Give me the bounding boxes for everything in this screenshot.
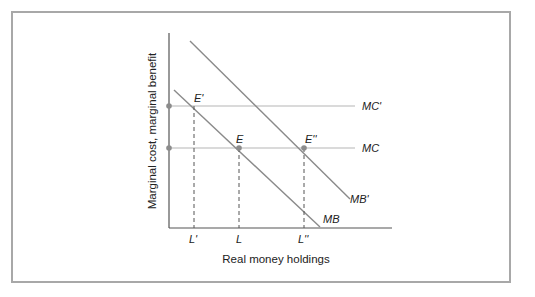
mb-curve (174, 90, 320, 227)
mb-prime-curve (190, 41, 350, 199)
y-axis-point-mc-prime (166, 103, 172, 109)
y-axis-title: Marginal cost, marginal benefit (146, 52, 158, 209)
chart: E' E E'' MC' MC MB' MB L' L L'' Real mon… (0, 0, 535, 297)
point-e (236, 145, 242, 151)
label-e-dprime: E'' (305, 133, 317, 145)
label-mb: MB (323, 213, 340, 225)
label-e: E (236, 133, 244, 145)
tick-l-dprime: L'' (298, 233, 309, 245)
y-axis-point-mc (166, 145, 172, 151)
x-axis-title: Real money holdings (222, 253, 330, 265)
label-e-prime: E' (194, 92, 204, 104)
label-mc-prime: MC' (362, 100, 382, 112)
point-e-dprime (301, 145, 307, 151)
label-mc: MC (362, 142, 379, 154)
label-mb-prime: MB' (350, 193, 370, 205)
tick-l-prime: L' (189, 233, 198, 245)
tick-l: L (236, 233, 242, 245)
